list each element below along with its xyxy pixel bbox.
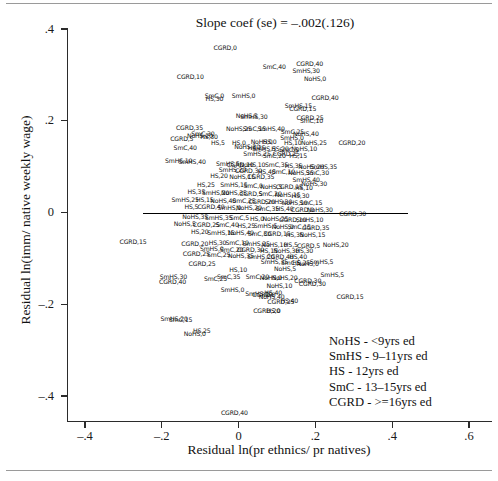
scatter-point-label: CGRD,40 xyxy=(221,410,248,416)
scatter-point-label: SmC,10 xyxy=(300,118,323,124)
scatter-point-label: HS,30 xyxy=(206,96,224,102)
scatter-point-label: CGRD,15 xyxy=(336,294,363,300)
scatter-point-label: HS,15 xyxy=(289,152,307,158)
legend-entry: HS - 12yrs ed xyxy=(329,364,432,379)
scatter-point-label: CGRD,15 xyxy=(289,106,316,112)
scatter-point-label: NoHS,0 xyxy=(184,331,206,337)
scatter-point-label: CGRD,40 xyxy=(159,279,186,285)
scatter-point-label: CGRD,25 xyxy=(189,261,216,267)
scatter-point-label: SmHS,0 xyxy=(232,93,256,99)
scatter-point-label: CGRD,5 xyxy=(170,136,193,142)
scatter-point-label: CGRD,0 xyxy=(214,45,237,51)
scatter-point-label: SmC,40 xyxy=(174,145,197,151)
scatter-point-label: SmC,20 xyxy=(263,152,286,158)
scatter-point-label: HS,5 xyxy=(184,204,198,210)
scatter-point-label: NoHS,0 xyxy=(297,261,319,267)
scatter-point-label: SmHS,5 xyxy=(321,272,345,278)
x-axis-title: Residual ln(pr ethnics/ pr natives) xyxy=(99,442,459,458)
scatter-point-label: CGRD,25 xyxy=(183,251,210,257)
scatter-point-label: CGRD,35 xyxy=(247,174,274,180)
scatter-point-label: SmC,25 xyxy=(204,276,227,282)
legend-entry: NoHS - <9yrs ed xyxy=(329,334,432,349)
scatter-point-label: NoHS,5 xyxy=(274,266,296,272)
scatter-point-label: HS,5 xyxy=(211,140,225,146)
scatter-point-label: SmHS,40 xyxy=(178,158,205,164)
scatter-point-label: HS,40 xyxy=(280,298,298,304)
scatter-point-label: CGRD,40 xyxy=(312,95,339,101)
scatter-point-label: CGRD,15 xyxy=(120,239,147,245)
scatter-point-label: SmC,15 xyxy=(169,317,192,323)
legend-entry: SmC - 13–15yrs ed xyxy=(329,380,432,395)
scatter-plot-figure: Slope coef (se) = –.002(.126) .4.20–.2–.… xyxy=(0,0,498,481)
scatter-point-label: CGRD,10 xyxy=(177,74,204,80)
scatter-point-label: SmHS,30 xyxy=(293,68,320,74)
scatter-point-label: SmC,25 xyxy=(207,252,230,258)
scatter-point-label: CGRD,30 xyxy=(299,281,326,287)
regression-fit-line xyxy=(143,213,408,215)
scatter-point-label: HS,20 xyxy=(191,229,209,235)
legend-entry: CGRD - >=16yrs ed xyxy=(329,395,432,410)
y-axis-title: Residual ln(imm/ native weekly wage) xyxy=(18,40,34,400)
scatter-point-label: NoHS,15 xyxy=(299,232,325,238)
scatter-point-label: HS,0 xyxy=(267,307,281,313)
scatter-point-label: SmHS,30 xyxy=(240,114,267,120)
scatter-point-label: SmHS,0 xyxy=(221,286,245,292)
scatter-point-label: HS,20 xyxy=(210,173,228,179)
scatter-point-label: SmC,40 xyxy=(263,63,286,69)
scatter-point-label: NoHS,0 xyxy=(304,76,326,82)
scatter-point-label: CGRD,20 xyxy=(338,140,365,146)
scatter-point-label: NoHS,20 xyxy=(323,242,349,248)
legend-entry: SmHS - 9–11yrs ed xyxy=(329,349,432,364)
legend: NoHS - <9yrs edSmHS - 9–11yrs edHS - 12y… xyxy=(329,334,432,410)
